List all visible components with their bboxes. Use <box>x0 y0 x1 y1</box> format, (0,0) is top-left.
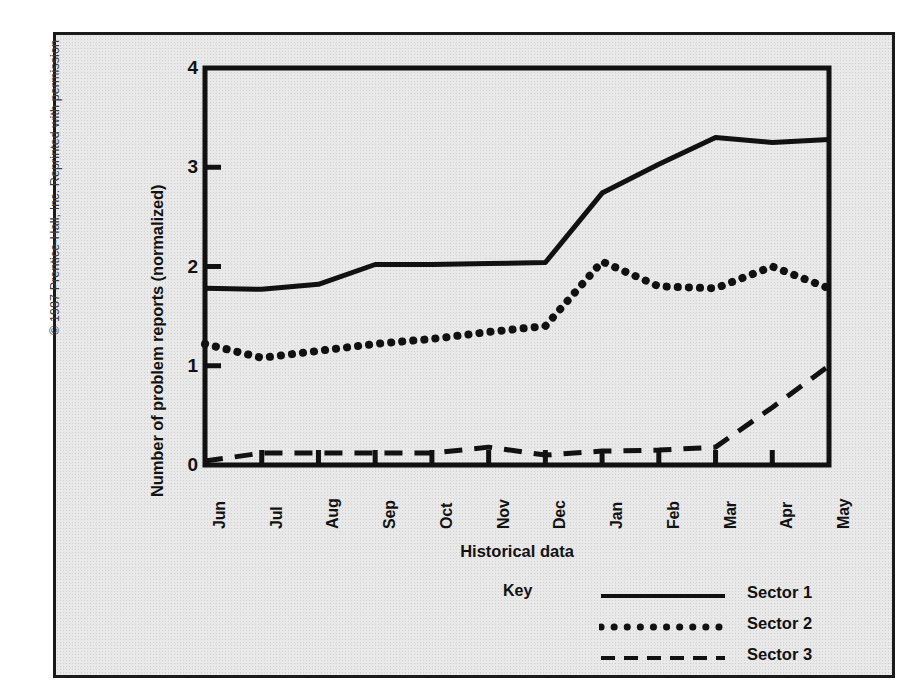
y-tick-label: 3 <box>172 157 198 176</box>
legend-label: Sector 1 <box>747 583 812 602</box>
legend-label: Sector 2 <box>747 614 812 633</box>
x-tick-label: Jul <box>268 506 286 529</box>
copyright-notice: © 1987 Prentice-Hall, Inc. Reprinted wit… <box>48 0 62 335</box>
y-tick-label: 0 <box>172 455 198 474</box>
y-tick-label: 2 <box>172 257 198 276</box>
x-tick-label: Oct <box>438 503 456 529</box>
x-tick-label: Mar <box>722 501 740 529</box>
legend-entry: Sector 3 <box>599 642 831 672</box>
y-axis-tick-labels: 01234 <box>168 68 198 465</box>
y-tick-label: 1 <box>172 356 198 375</box>
chart-svg <box>205 68 829 465</box>
plot-area <box>205 68 829 465</box>
x-tick-label: Aug <box>324 498 342 529</box>
legend-line-sample-solid <box>599 592 727 598</box>
series-line-sector-2 <box>205 262 829 358</box>
legend-line-sample-dotted <box>599 623 727 629</box>
series-line-sector-3 <box>205 366 829 461</box>
legend-label: Sector 3 <box>747 645 812 664</box>
x-tick-label: Nov <box>495 499 513 529</box>
plot-frame <box>205 68 829 465</box>
x-axis-tick-labels: JunJulAugSepOctNovDecJanFebMarAprMay <box>205 471 829 533</box>
legend-title: Key <box>503 582 532 600</box>
x-tick-label: Jun <box>211 501 229 529</box>
y-axis-title: Number of problem reports (normalized) <box>148 185 167 497</box>
legend-line-sample-dashed <box>599 654 727 660</box>
x-tick-label: Feb <box>665 501 683 529</box>
y-tick-label: 4 <box>172 58 198 77</box>
x-tick-label: Apr <box>778 502 796 529</box>
x-axis-title: Historical data <box>205 542 829 561</box>
figure-plate: © 1987 Prentice-Hall, Inc. Reprinted wit… <box>53 32 895 678</box>
x-tick-label: Jan <box>608 502 626 529</box>
legend-entry: Sector 2 <box>599 611 831 641</box>
x-tick-label: Dec <box>551 500 569 529</box>
legend-entry: Sector 1 <box>599 580 831 610</box>
x-tick-label: Sep <box>381 500 399 529</box>
x-tick-label: May <box>835 498 853 529</box>
series-line-sector-1 <box>205 137 829 289</box>
